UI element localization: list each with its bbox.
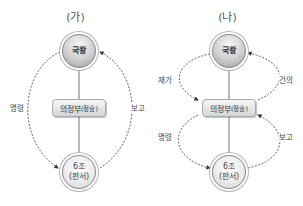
edge-label-approval: 재가 [158,74,172,85]
edge-label-command: 명령 [158,131,172,142]
edge-label-command: 명령 [10,102,24,113]
king-node: 국왕 [212,34,246,68]
council-node: 의정부(정승) [202,99,256,117]
six-ministries-label: 6조 [223,162,235,172]
six-ministries-label: 6조 [73,162,85,172]
council-label: 의정부 [210,103,231,114]
edge-label-report: 보고 [279,131,293,142]
council-label: 의정부 [60,103,81,114]
edge-label-report: 보고 [131,102,145,113]
king-label: 국왕 [222,46,236,56]
diagram-na: (나) 국왕 의정부(정승) 6조 (판서) 재가 건의 명령 보고 [152,0,303,206]
council-sub-label: (정승) [81,103,98,113]
king-label: 국왕 [72,46,86,56]
diagram-ga: (가) 국왕 의정부(정승) 6조 (판서) 명령 보고 [0,0,151,206]
six-ministries-node: 6조 (판서) [62,155,96,189]
king-node: 국왕 [62,34,96,68]
six-ministries-sublabel: (판서) [219,172,239,182]
edge-label-proposal: 건의 [279,74,293,85]
council-sub-label: (정승) [231,103,248,113]
six-ministries-node: 6조 (판서) [212,155,246,189]
council-node: 의정부(정승) [52,99,106,117]
six-ministries-sublabel: (판서) [69,172,89,182]
